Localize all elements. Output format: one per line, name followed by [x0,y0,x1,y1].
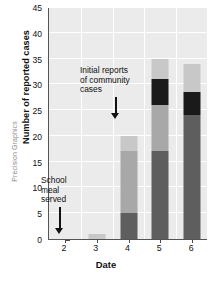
bar-segment-light-gray [120,136,137,151]
arrow-head [55,228,63,234]
chart-figure: Precision Graphics Number of reported ca… [0,0,212,281]
arrow-shaft [59,207,61,228]
credit-label: Precision Graphics [11,104,18,200]
bar-4[interactable] [120,136,137,239]
arrow-head [111,113,119,119]
x-tick-label-4: 4 [115,243,141,253]
y-tick-mark [66,240,70,241]
x-tick-label-5: 5 [146,243,172,253]
bar-segment-dark-gray [120,213,137,239]
bar-segment-dark-gray [184,115,201,239]
y-tick-label: 20 [22,132,42,142]
annotation-school-meal: School meal served [41,176,67,205]
gridline-horizontal [49,58,207,59]
bar-segment-black [184,92,201,115]
y-tick-label: 30 [22,80,42,90]
arrow-shaft [115,97,117,113]
bar-5[interactable] [152,59,169,239]
x-tick-label-6: 6 [178,243,204,253]
y-tick-label: 5 [22,209,42,219]
gridline-horizontal [49,6,207,7]
gridline-horizontal [49,32,207,33]
annotation-community-cases: Initial reports of community cases [80,66,130,95]
gridline-vertical [176,8,177,239]
bar-segment-light-gray [184,64,201,92]
annotation-line: served [41,195,67,205]
plot-area [48,8,207,240]
x-axis-title: Date [0,259,212,270]
y-tick-label: 25 [22,106,42,116]
y-tick-label: 40 [22,29,42,39]
gridline-vertical [144,8,145,239]
bar-segment-dark-gray [152,151,169,239]
y-tick-label: 45 [22,3,42,13]
gridline-vertical [81,8,82,239]
y-tick-label: 0 [22,235,42,245]
bar-segment-light-gray [152,59,169,80]
y-tick-label: 35 [22,55,42,65]
gridline-vertical [113,8,114,239]
x-tick-label-2: 2 [51,243,77,253]
y-axis-ticks: 051015202530354045 [22,8,42,240]
bar-segment-medium-gray [152,105,169,151]
annotation-line: cases [80,85,130,95]
x-tick-label-3: 3 [83,243,109,253]
y-tick-label: 10 [22,183,42,193]
bar-6[interactable] [184,64,201,239]
bar-segment-black [152,79,169,105]
bar-segment-medium-gray [120,151,137,213]
y-tick-label: 15 [22,158,42,168]
